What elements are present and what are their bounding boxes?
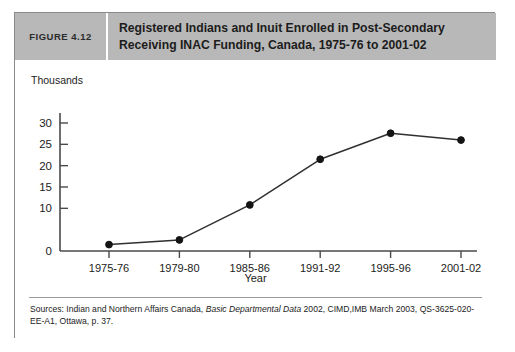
- y-axis-tick-label: 10: [26, 202, 52, 214]
- axis-layer: [60, 113, 477, 258]
- x-axis-title: Year: [15, 272, 496, 284]
- source-note: Sources: Indian and Northern Affairs Can…: [30, 304, 482, 327]
- figure-number-cell: FIGURE 4.12: [15, 13, 108, 60]
- y-axis-tick-label: 15: [26, 181, 52, 193]
- source-divider: [29, 297, 482, 298]
- y-axis-tick-label: 25: [26, 138, 52, 150]
- figure-body: Thousands 01015202530 1975-761979-801985…: [15, 60, 496, 338]
- source-italic-title: Basic Departmental Data: [206, 304, 302, 314]
- figure-title-line-2: Receiving INAC Funding, Canada, 1975-76 …: [119, 37, 488, 54]
- plot-area: 01015202530 1975-761979-801985-861991-92…: [15, 60, 496, 270]
- figure-number-label: FIGURE 4.12: [29, 31, 92, 42]
- figure-container: FIGURE 4.12 Registered Indians and Inuit…: [14, 12, 495, 338]
- y-axis-tick-label: 0: [26, 245, 52, 257]
- source-prefix: Sources: Indian and Northern Affairs Can…: [30, 304, 206, 314]
- figure-title-cell: Registered Indians and Inuit Enrolled in…: [108, 13, 496, 60]
- figure-header: FIGURE 4.12 Registered Indians and Inuit…: [15, 13, 496, 60]
- y-axis-tick-label: 20: [26, 160, 52, 172]
- line-chart-svg: [15, 60, 496, 270]
- y-axis-tick-label: 30: [26, 117, 52, 129]
- figure-title-line-1: Registered Indians and Inuit Enrolled in…: [119, 20, 488, 37]
- series-layer: [106, 130, 465, 248]
